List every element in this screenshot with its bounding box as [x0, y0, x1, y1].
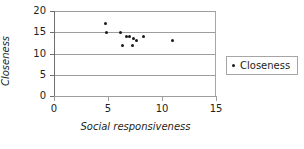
y-tick-mark [50, 75, 55, 76]
gridline [54, 11, 215, 12]
x-tick-label: 0 [39, 104, 69, 114]
x-tick-mark [216, 96, 217, 101]
x-tick-label: 15 [201, 104, 231, 114]
gridline [54, 75, 215, 76]
data-point-marker [131, 44, 134, 47]
scatter-chart-figure: 05101520 051015 Social responsiveness Cl… [0, 0, 304, 149]
y-tick-label: 10 [6, 49, 46, 59]
y-tick-label: 5 [6, 70, 46, 80]
x-axis-line [54, 96, 217, 97]
y-tick-mark [50, 32, 55, 33]
y-tick-mark [50, 54, 55, 55]
y-tick-mark [50, 11, 55, 12]
data-point-marker [121, 44, 124, 47]
gridline [54, 32, 215, 33]
legend-marker-icon [232, 64, 235, 67]
x-tick-mark [108, 96, 109, 101]
y-tick-label: 0 [6, 91, 46, 101]
legend-item-label: Closeness [240, 60, 290, 71]
x-tick-mark [54, 96, 55, 101]
y-tick-label: 15 [6, 27, 46, 37]
gridline [54, 54, 215, 55]
plot-area [54, 11, 216, 96]
y-tick-label: 20 [6, 6, 46, 16]
chart-legend[interactable]: Closeness [226, 56, 298, 75]
x-tick-mark [162, 96, 163, 101]
data-point-marker [135, 39, 138, 42]
x-tick-label: 10 [147, 104, 177, 114]
y-axis-title: Closeness [0, 28, 11, 94]
x-tick-label: 5 [93, 104, 123, 114]
x-axis-title: Social responsiveness [54, 121, 217, 132]
